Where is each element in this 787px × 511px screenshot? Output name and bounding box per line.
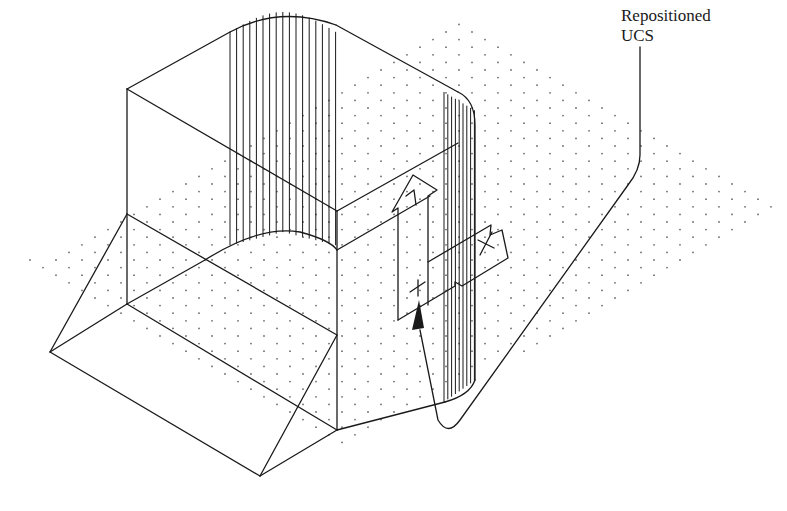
cylinder-hatching-right [444,92,474,402]
ucs-pick-arrow-icon [412,300,424,330]
callout-line-2: UCS [621,26,711,46]
cylinder-hatching-top [230,12,336,245]
callout-label: Repositioned UCS [621,6,711,46]
callout-leader [420,47,640,429]
grid-dots [29,24,772,444]
ucs-icon [392,175,508,330]
cad-drawing [0,0,787,511]
callout-line-1: Repositioned [621,6,711,26]
